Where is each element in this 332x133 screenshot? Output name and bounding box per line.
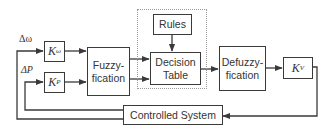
k-v-block: KV <box>283 57 313 79</box>
k-v-sub: V <box>300 62 304 75</box>
rules-label: Rules <box>159 18 186 31</box>
k-v-base: K <box>292 62 300 75</box>
k-omega-block: Kω <box>44 41 65 62</box>
decision-table-line1: Decision <box>155 56 195 69</box>
controlled-system-label: Controlled System <box>130 109 216 122</box>
fuzzyfication-block: Fuzzy- fication <box>87 47 130 96</box>
decision-table-block: Decision Table <box>150 52 201 85</box>
rules-block: Rules <box>153 14 192 35</box>
defuzzyfication-line1: Defuzzy- <box>222 56 263 69</box>
k-p-block: KP <box>44 72 65 93</box>
k-omega-base: K <box>48 45 56 58</box>
decision-table-line2: Table <box>163 69 188 82</box>
defuzzyfication-block: Defuzzy- fication <box>219 46 266 91</box>
delta-p-label: ΔP <box>21 64 33 75</box>
k-p-sub: P <box>56 76 60 89</box>
delta-omega-label: Δω <box>19 33 32 44</box>
fuzzyfication-line2: fication <box>92 72 125 85</box>
fuzzyfication-line1: Fuzzy- <box>93 59 125 72</box>
defuzzyfication-line2: fication <box>226 69 259 82</box>
k-omega-sub: ω <box>56 45 61 58</box>
controlled-system-block: Controlled System <box>123 105 223 125</box>
